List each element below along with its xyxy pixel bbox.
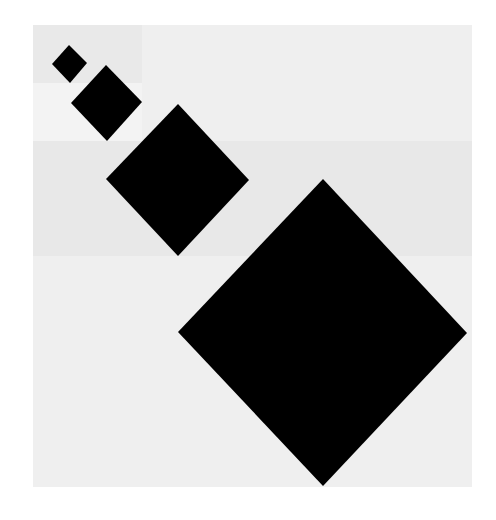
diamond-1 xyxy=(52,45,87,83)
diamond-4 xyxy=(178,179,467,486)
diamond-3 xyxy=(106,104,249,256)
artwork-canvas xyxy=(0,0,496,520)
diamond-2 xyxy=(71,65,142,141)
diamond-composition xyxy=(0,0,496,520)
